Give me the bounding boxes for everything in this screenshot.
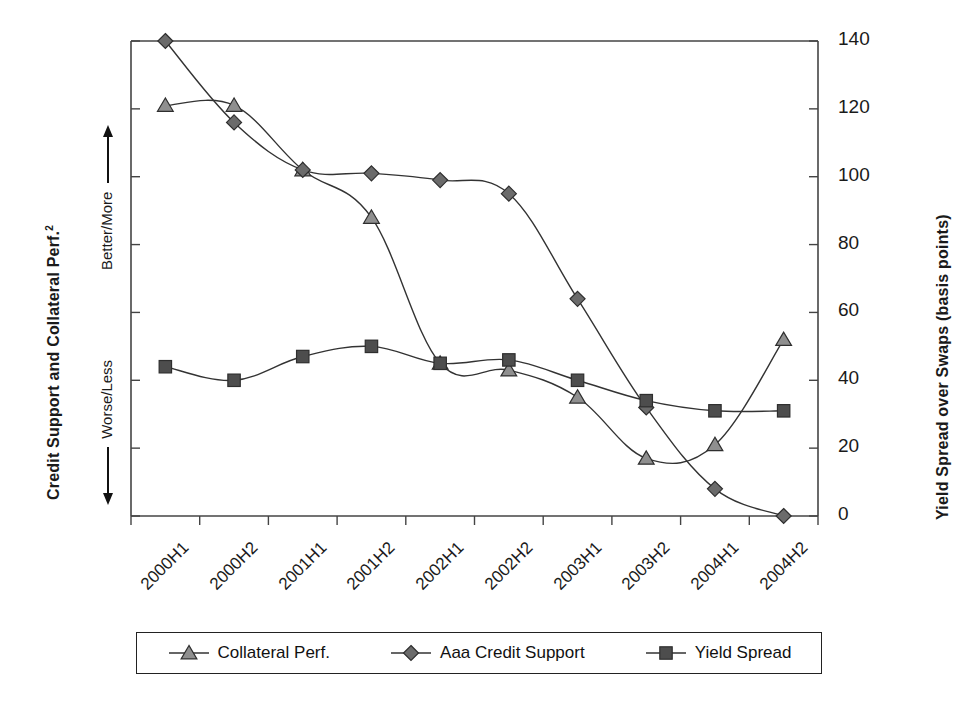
x-tick-label-2000h1: 2000H1 xyxy=(128,538,193,603)
left-axis-title-text: Credit Support and Collateral Perf. xyxy=(45,231,62,500)
series-line xyxy=(165,100,783,463)
square-marker xyxy=(159,361,171,373)
diamond-marker xyxy=(707,481,722,496)
diamond-marker xyxy=(227,115,242,130)
diamond-marker xyxy=(364,166,379,181)
x-tick-label-2001h1: 2001H1 xyxy=(266,538,331,603)
diamond-marker xyxy=(404,646,419,661)
square-marker xyxy=(777,405,789,417)
diamond-marker xyxy=(389,643,433,663)
diamond-marker xyxy=(433,173,448,188)
legend-item-aaa-credit-support[interactable]: Aaa Credit Support xyxy=(389,643,585,663)
diamond-marker xyxy=(639,400,654,415)
triangle-marker xyxy=(638,451,654,464)
direction-worse-less-text: Worse/Less xyxy=(98,360,115,439)
triangle-marker xyxy=(226,98,242,111)
direction-worse-less: Worse/Less xyxy=(98,360,115,505)
x-tick-label-2000h2: 2000H2 xyxy=(197,538,262,603)
legend-item-yield-spread[interactable]: Yield Spread xyxy=(644,643,792,663)
triangle-marker xyxy=(157,98,173,111)
diamond-marker xyxy=(501,186,516,201)
x-tick-label-2002h1: 2002H1 xyxy=(403,538,468,603)
direction-better-more: Better/More xyxy=(98,125,115,270)
y-tick-label: 120 xyxy=(838,96,870,118)
legend-label: Aaa Credit Support xyxy=(440,643,585,663)
series-aaa-credit-support xyxy=(158,34,791,524)
triangle-marker xyxy=(295,162,311,175)
square-marker xyxy=(228,374,240,386)
y-tick-label: 0 xyxy=(838,503,849,525)
square-marker xyxy=(709,405,721,417)
legend-label: Yield Spread xyxy=(695,643,792,663)
series-line xyxy=(165,41,783,516)
triangle-marker xyxy=(501,363,517,376)
x-tick-label-2003h1: 2003H1 xyxy=(541,538,606,603)
series-group xyxy=(157,34,791,524)
series-line xyxy=(165,346,783,411)
y-tick-label: 60 xyxy=(838,299,859,321)
triangle-marker xyxy=(707,437,723,450)
triangle-marker xyxy=(167,643,211,663)
chart-figure: Credit Support and Collateral Perf.2 Bet… xyxy=(0,0,959,704)
diamond-marker xyxy=(570,291,585,306)
axes-group xyxy=(131,41,818,525)
x-tick-label-2004h2: 2004H2 xyxy=(747,538,812,603)
arrow-down-icon xyxy=(102,447,114,505)
triangle-marker xyxy=(364,210,380,223)
legend-item-collateral-perf[interactable]: Collateral Perf. xyxy=(167,643,330,663)
left-axis-title-superscript: 2 xyxy=(44,225,55,231)
right-axis-title: Yield Spread over Swaps (basis points) xyxy=(906,0,946,540)
direction-better-more-text: Better/More xyxy=(98,192,115,270)
y-tick-label: 100 xyxy=(838,164,870,186)
triangle-marker xyxy=(776,332,792,345)
x-tick-label-2003h2: 2003H2 xyxy=(609,538,674,603)
series-yield-spread xyxy=(159,340,790,417)
y-tick-label: 20 xyxy=(838,435,859,457)
arrow-up-icon xyxy=(102,125,114,183)
square-marker xyxy=(644,643,688,663)
left-axis-title: Credit Support and Collateral Perf.2 xyxy=(14,0,54,530)
diamond-marker xyxy=(295,162,310,177)
x-tick-label-2001h2: 2001H2 xyxy=(335,538,400,603)
diamond-marker xyxy=(776,509,791,524)
y-tick-label: 40 xyxy=(838,367,859,389)
chart-legend: Collateral Perf.Aaa Credit SupportYield … xyxy=(136,632,822,674)
square-marker xyxy=(571,374,583,386)
right-axis-title-text: Yield Spread over Swaps (basis points) xyxy=(934,214,952,520)
square-marker xyxy=(640,394,652,406)
square-marker xyxy=(434,357,446,369)
series-collateral-perf xyxy=(157,98,791,464)
triangle-marker xyxy=(570,390,586,403)
left-axis-direction-labels: Better/More Worse/Less xyxy=(72,0,112,530)
square-marker xyxy=(503,354,515,366)
x-tick-label-2004h1: 2004H1 xyxy=(678,538,743,603)
y-tick-label: 140 xyxy=(838,28,870,50)
triangle-marker xyxy=(432,356,448,369)
triangle-marker xyxy=(181,646,197,659)
y-tick-label: 80 xyxy=(838,232,859,254)
x-tick-label-2002h2: 2002H2 xyxy=(472,538,537,603)
square-marker xyxy=(660,647,672,659)
square-marker xyxy=(365,340,377,352)
square-marker xyxy=(297,350,309,362)
diamond-marker xyxy=(158,34,173,49)
legend-label: Collateral Perf. xyxy=(218,643,330,663)
